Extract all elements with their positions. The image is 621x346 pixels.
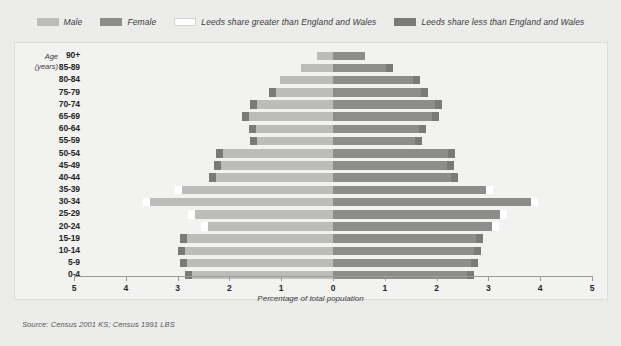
x-axis-tick-label: 4 <box>114 283 138 293</box>
bar-male <box>301 64 333 73</box>
comparison-cap-male-less <box>250 137 257 146</box>
x-axis-tick-label: 3 <box>476 283 500 293</box>
legend-item-male: Male <box>37 17 83 27</box>
comparison-cap-female-less <box>476 234 483 243</box>
comparison-cap-female-less <box>471 259 478 268</box>
age-group-label: 30-34 <box>38 196 80 207</box>
bar-female <box>333 76 420 85</box>
population-pyramid-chart: Male Female Leeds share greater than Eng… <box>0 0 621 346</box>
age-group-label: 40-44 <box>38 172 80 183</box>
legend-swatch-female-icon <box>100 18 122 26</box>
pyramid-row: 60-64 <box>0 123 621 135</box>
legend-label-share-less: Leeds share less than England and Wales <box>421 17 584 27</box>
legend-item-share-less: Leeds share less than England and Wales <box>394 17 584 27</box>
bar-female <box>333 64 393 73</box>
comparison-cap-female-less <box>419 125 426 134</box>
age-group-label: 20-24 <box>38 221 80 232</box>
comparison-cap-female-less <box>474 247 481 256</box>
x-axis-tick-label: 5 <box>580 283 604 293</box>
bar-male <box>209 173 333 182</box>
age-group-label: 80-84 <box>38 74 80 85</box>
x-axis-tick-label: 2 <box>217 283 241 293</box>
x-axis-tick <box>126 276 127 281</box>
x-axis-tick <box>333 276 334 281</box>
comparison-cap-female-greater <box>486 186 493 195</box>
pyramid-row: 15-19 <box>0 233 621 245</box>
age-group-label: 55-59 <box>38 135 80 146</box>
x-axis-tick <box>540 276 541 281</box>
bar-male <box>280 76 333 85</box>
x-axis-label: Percentage of total population <box>0 294 621 303</box>
pyramid-row: 70-74 <box>0 99 621 111</box>
pyramid-row: 65-69 <box>0 111 621 123</box>
bar-female <box>333 173 458 182</box>
bar-male <box>249 125 333 134</box>
pyramid-row: 90+ <box>0 50 621 62</box>
bar-female <box>333 125 426 134</box>
x-axis-tick <box>74 276 75 281</box>
bar-male <box>178 247 333 256</box>
comparison-cap-female-less <box>421 88 428 97</box>
x-axis-tick <box>592 276 593 281</box>
pyramid-rows: 90+85-8980-8475-7970-7465-6960-6455-5950… <box>0 50 621 282</box>
pyramid-row: 45-49 <box>0 160 621 172</box>
comparison-cap-female-less <box>447 161 454 170</box>
bar-female <box>333 100 442 109</box>
comparison-cap-male-greater <box>201 222 208 231</box>
comparison-cap-female-greater <box>500 210 507 219</box>
comparison-cap-female-less <box>432 112 439 121</box>
pyramid-row: 35-39 <box>0 184 621 196</box>
pyramid-row: 20-24 <box>0 221 621 233</box>
x-axis-tick <box>488 276 489 281</box>
x-axis-tick-label: 2 <box>425 283 449 293</box>
comparison-cap-female-greater <box>492 222 499 231</box>
x-axis-tick <box>385 276 386 281</box>
bar-female <box>333 161 454 170</box>
comparison-cap-female-less <box>413 76 420 85</box>
x-axis-tick-label: 0 <box>321 283 345 293</box>
bar-male <box>250 100 333 109</box>
bar-male <box>180 259 333 268</box>
bar-male <box>188 210 333 219</box>
bar-female <box>333 149 455 158</box>
x-axis-tick <box>178 276 179 281</box>
comparison-cap-female-less <box>415 137 422 146</box>
pyramid-row: 85-89 <box>0 62 621 74</box>
legend-swatch-male-icon <box>37 18 59 26</box>
legend-swatch-greater-icon <box>174 18 196 26</box>
bar-female <box>333 52 365 61</box>
pyramid-row: 50-54 <box>0 148 621 160</box>
pyramid-row: 80-84 <box>0 74 621 86</box>
age-group-label: 10-14 <box>38 245 80 256</box>
bar-male <box>242 112 333 121</box>
bar-female <box>333 259 478 268</box>
comparison-cap-female-less <box>435 100 442 109</box>
legend-label-share-greater: Leeds share greater than England and Wal… <box>201 17 376 27</box>
legend-label-female: Female <box>127 17 156 27</box>
bar-male <box>317 52 333 61</box>
bar-male <box>175 186 333 195</box>
comparison-cap-male-less <box>242 112 249 121</box>
source-note: Source: Census 2001 KS; Census 1991 LBS <box>22 320 175 329</box>
x-axis-tick-label: 4 <box>528 283 552 293</box>
age-group-label: 15-19 <box>38 233 80 244</box>
comparison-cap-male-less <box>180 259 187 268</box>
bar-male <box>180 234 333 243</box>
age-group-label: 60-64 <box>38 123 80 134</box>
comparison-cap-male-less <box>250 100 257 109</box>
bar-male <box>214 161 333 170</box>
comparison-cap-male-less <box>180 234 187 243</box>
legend-swatch-less-icon <box>394 18 416 26</box>
age-group-label: 90+ <box>38 50 80 61</box>
x-axis-tick <box>229 276 230 281</box>
x-axis-tick-label: 5 <box>62 283 86 293</box>
bar-female <box>333 186 493 195</box>
comparison-cap-male-less <box>214 161 221 170</box>
bar-female <box>333 112 439 121</box>
bar-male <box>201 222 333 231</box>
comparison-cap-male-less <box>269 88 276 97</box>
age-group-label: 35-39 <box>38 184 80 195</box>
bar-female <box>333 222 499 231</box>
legend-item-share-greater: Leeds share greater than England and Wal… <box>174 17 376 27</box>
comparison-cap-male-greater <box>188 210 195 219</box>
